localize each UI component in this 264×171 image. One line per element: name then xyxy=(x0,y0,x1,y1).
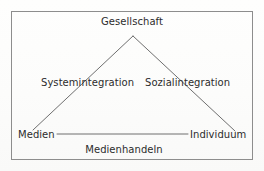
diagram-page: Gesellschaft Systemintegration Sozialint… xyxy=(0,0,264,171)
node-label-gesellschaft: Gesellschaft xyxy=(0,16,264,27)
node-label-individuum: Individuum xyxy=(190,129,246,140)
node-label-sozialintegration: Sozialintegration xyxy=(145,77,230,88)
node-label-systemintegration: Systemintegration xyxy=(41,77,134,88)
node-label-medien: Medien xyxy=(18,129,55,140)
edge-label-medienhandeln: Medienhandeln xyxy=(0,144,264,155)
